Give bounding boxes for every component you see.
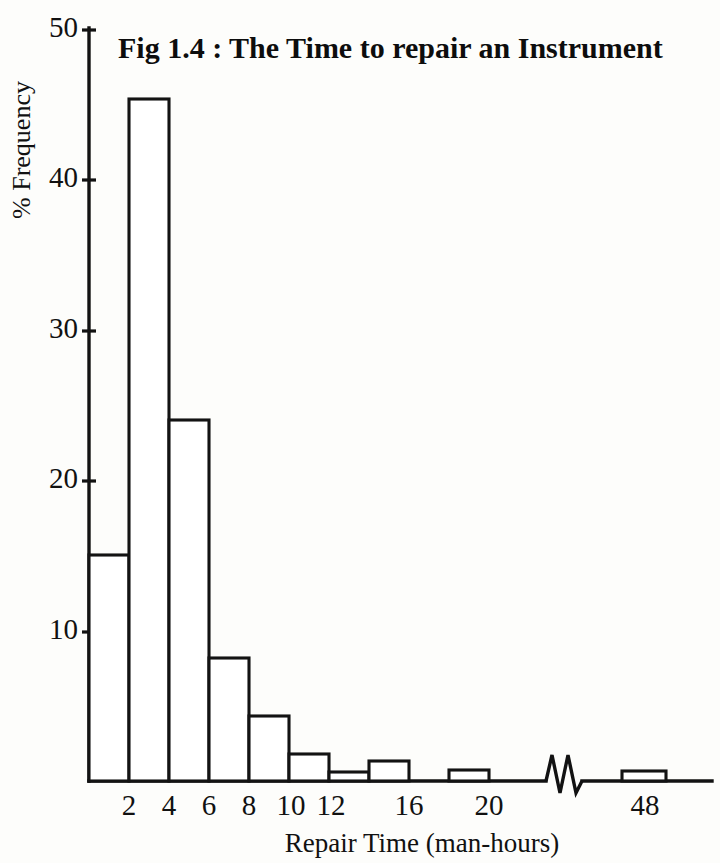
axis-break-zigzag-icon bbox=[546, 755, 582, 793]
x-tick-label: 48 bbox=[631, 789, 660, 821]
y-tick-labels: 10 20 30 40 50 bbox=[49, 11, 78, 645]
y-tick-label: 20 bbox=[49, 462, 78, 494]
histogram-bars bbox=[89, 99, 666, 781]
bar-6-8 bbox=[209, 658, 249, 781]
x-tick-label: 4 bbox=[162, 789, 177, 821]
bar-10-12 bbox=[289, 754, 329, 781]
bar-2-4 bbox=[129, 99, 169, 781]
bar-18-20 bbox=[449, 770, 489, 781]
bar-12-14 bbox=[329, 772, 369, 781]
bar-4-6 bbox=[169, 420, 209, 781]
y-axis-title: % Frequency bbox=[7, 81, 36, 219]
x-tick-label: 8 bbox=[242, 789, 257, 821]
bar-8-10 bbox=[249, 716, 289, 781]
bar-0-2 bbox=[89, 555, 129, 781]
x-tick-label: 12 bbox=[317, 789, 346, 821]
x-axis-title: Repair Time (man-hours) bbox=[285, 828, 559, 858]
y-tick-label: 10 bbox=[49, 613, 78, 645]
chart-title: Fig 1.4 : The Time to repair an Instrume… bbox=[118, 31, 663, 64]
bar-14-16 bbox=[369, 761, 409, 781]
x-tick-labels: 2 4 6 8 10 12 16 20 48 bbox=[122, 789, 660, 821]
y-tick-label: 30 bbox=[49, 312, 78, 344]
x-tick-label: 20 bbox=[475, 789, 504, 821]
bar-48-50 bbox=[622, 771, 666, 781]
x-tick-label: 16 bbox=[395, 789, 424, 821]
histogram-chart: % Frequency Fig 1.4 : The Time to repair… bbox=[0, 0, 720, 863]
x-tick-label: 6 bbox=[202, 789, 217, 821]
x-tick-label: 10 bbox=[277, 789, 306, 821]
figure-container: % Frequency Fig 1.4 : The Time to repair… bbox=[0, 0, 720, 863]
x-tick-label: 2 bbox=[122, 789, 137, 821]
y-tick-label: 40 bbox=[49, 161, 78, 193]
y-tick-label: 50 bbox=[49, 11, 78, 43]
